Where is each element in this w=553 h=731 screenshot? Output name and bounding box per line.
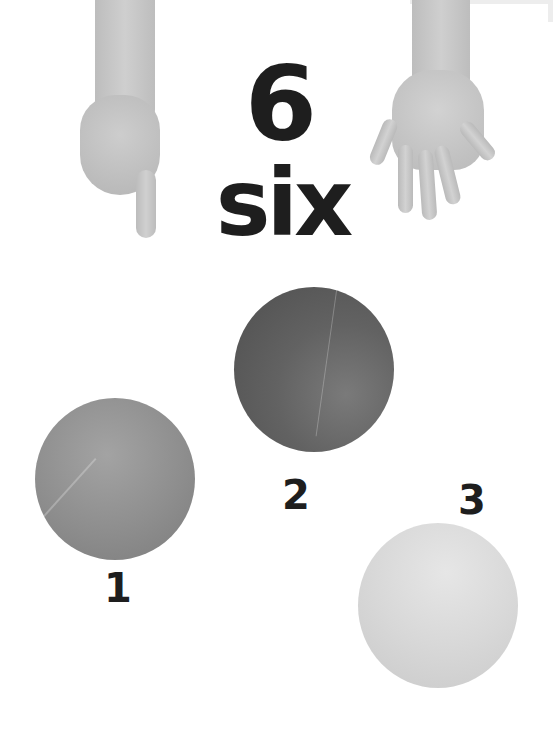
ball-seam	[316, 288, 338, 437]
right-arm	[412, 0, 470, 80]
ball-2-count-label: 2	[282, 475, 310, 515]
ball-seam	[41, 458, 96, 519]
ball-1	[35, 398, 195, 560]
pointing-finger	[136, 170, 156, 238]
ball-2	[234, 287, 394, 452]
right-finger-index	[398, 145, 413, 213]
number-numeral: 6	[210, 52, 350, 156]
ball-3-count-label: 3	[458, 480, 486, 520]
number-word: six	[200, 158, 365, 250]
ball-1-count-label: 1	[104, 568, 132, 608]
page-edge-corner	[548, 0, 553, 22]
ball-3	[358, 523, 518, 688]
